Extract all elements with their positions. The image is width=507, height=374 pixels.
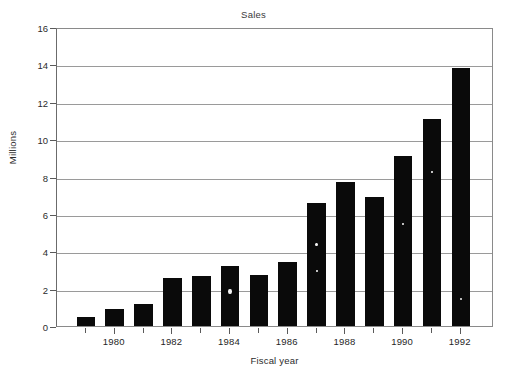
bar	[250, 275, 269, 326]
bar	[105, 309, 124, 326]
bar	[221, 266, 240, 326]
x-tick-mark-minor	[258, 328, 259, 333]
plot-area	[56, 28, 493, 327]
x-tick-mark-minor	[200, 328, 201, 333]
bar	[336, 182, 355, 326]
gridline	[57, 104, 492, 105]
x-tick-mark-minor	[143, 328, 144, 333]
x-tick-mark	[171, 328, 172, 334]
bar	[163, 278, 182, 326]
x-tick-mark	[460, 328, 461, 334]
y-tick-label: 12	[22, 97, 48, 108]
y-tick-label: 14	[22, 60, 48, 71]
scan-artifact	[228, 289, 231, 294]
x-tick-label: 1990	[382, 336, 422, 347]
bar	[307, 203, 326, 326]
bar	[394, 156, 413, 326]
scan-artifact	[316, 270, 318, 272]
x-tick-label: 1984	[209, 336, 249, 347]
x-tick-label: 1982	[151, 336, 191, 347]
x-tick-label: 1980	[94, 336, 134, 347]
x-tick-label: 1986	[267, 336, 307, 347]
x-tick-mark-minor	[316, 328, 317, 333]
y-tick-label: 4	[22, 247, 48, 258]
y-tick-label: 10	[22, 135, 48, 146]
bar	[134, 304, 153, 326]
scan-artifact	[460, 298, 462, 300]
bar	[192, 276, 211, 326]
x-tick-label: 1992	[440, 336, 480, 347]
x-tick-mark	[287, 328, 288, 334]
y-tick-label: 6	[22, 209, 48, 220]
y-axis-label: Millions	[7, 108, 18, 188]
y-tick-label: 0	[22, 322, 48, 333]
y-tick-label: 2	[22, 284, 48, 295]
bar	[452, 68, 471, 326]
x-tick-label: 1988	[324, 336, 364, 347]
x-tick-mark-minor	[431, 328, 432, 333]
chart-title: Sales	[0, 9, 507, 20]
bar	[77, 317, 96, 326]
bar	[365, 197, 384, 326]
x-tick-mark-minor	[85, 328, 86, 333]
y-tick-label: 16	[22, 23, 48, 34]
x-tick-mark	[229, 328, 230, 334]
gridline	[57, 66, 492, 67]
y-tick-label: 8	[22, 172, 48, 183]
x-tick-mark-minor	[373, 328, 374, 333]
x-axis-label: Fiscal year	[56, 355, 493, 366]
bar	[278, 262, 297, 326]
bar	[423, 119, 442, 326]
x-tick-mark	[344, 328, 345, 334]
y-tick-mark	[50, 327, 56, 328]
sales-bar-chart: Sales Millions 0246810121416 19801982198…	[0, 0, 507, 374]
x-tick-mark	[114, 328, 115, 334]
x-tick-mark	[402, 328, 403, 334]
